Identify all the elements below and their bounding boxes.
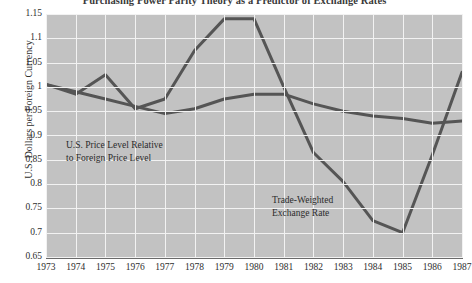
series-label-exchange-rate: Trade-Weighted Exchange Rate [272, 194, 333, 219]
y-tick-label: 0.95 [14, 105, 42, 115]
gridline-vertical [254, 14, 255, 258]
x-tick-label: 1983 [334, 262, 353, 272]
x-tick-label: 1977 [155, 262, 174, 272]
gridline-horizontal [46, 111, 463, 112]
gridline-horizontal [46, 63, 463, 64]
gridline-vertical [313, 14, 314, 258]
x-tick-label: 1985 [393, 262, 412, 272]
gridline-vertical [165, 14, 166, 258]
y-tick-label: 0.85 [14, 154, 42, 164]
x-axis-line [46, 258, 463, 259]
gridline-vertical [135, 14, 136, 258]
gridline-vertical [76, 14, 77, 258]
y-tick-label: 0.75 [14, 202, 42, 212]
gridline-vertical [462, 14, 463, 258]
x-tick-label: 1980 [245, 262, 264, 272]
gridline-vertical [403, 14, 404, 258]
gridline-vertical [105, 14, 106, 258]
gridline-horizontal [46, 14, 463, 15]
gridline-horizontal [46, 135, 463, 136]
y-tick-label: 1.05 [14, 57, 42, 67]
y-tick-label: 1 [14, 81, 42, 91]
x-tick-label: 1979 [215, 262, 234, 272]
y-tick-label: 0.65 [14, 251, 42, 261]
x-tick-label: 1986 [423, 262, 442, 272]
x-tick-label: 1976 [126, 262, 145, 272]
gridline-vertical [46, 14, 47, 258]
gridline-horizontal [46, 233, 463, 234]
y-tick-label: 0.9 [14, 130, 42, 140]
x-axis-tick-labels: 1973197419751976197719781979198019811982… [0, 262, 469, 278]
gridline-horizontal [46, 208, 463, 209]
plot-area [46, 14, 463, 258]
gridline-vertical [343, 14, 344, 258]
x-tick-label: 1974 [66, 262, 85, 272]
x-tick-label: 1984 [363, 262, 382, 272]
series-label-price-level: U.S. Price Level Relative to Foreign Pri… [66, 139, 163, 164]
y-tick-label: 1.15 [14, 8, 42, 18]
x-tick-label: 1973 [37, 262, 56, 272]
gridline-vertical [432, 14, 433, 258]
y-tick-label: 0.8 [14, 178, 42, 188]
gridline-vertical [195, 14, 196, 258]
y-tick-label: 0.7 [14, 227, 42, 237]
gridline-horizontal [46, 38, 463, 39]
y-axis-tick-labels: 1.151.11.0510.950.90.850.80.750.70.65 [8, 0, 42, 283]
gridline-horizontal [46, 184, 463, 185]
x-tick-label: 1978 [185, 262, 204, 272]
y-tick-label: 1.1 [14, 32, 42, 42]
gridline-vertical [284, 14, 285, 258]
gridline-vertical [373, 14, 374, 258]
x-tick-label: 1975 [96, 262, 115, 272]
gridline-vertical [224, 14, 225, 258]
x-tick-label: 1981 [274, 262, 293, 272]
x-tick-label: 1982 [304, 262, 323, 272]
gridline-horizontal [46, 87, 463, 88]
x-tick-label: 1987 [453, 262, 472, 272]
chart-title: Purchasing Power Parity Theory as a Pred… [0, 0, 469, 8]
